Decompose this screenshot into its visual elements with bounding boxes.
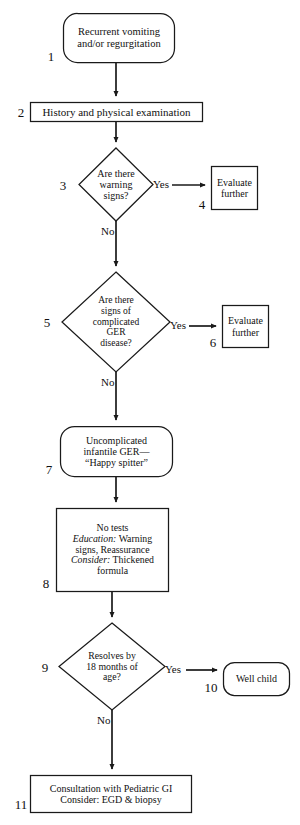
node-3-shape — [79, 148, 153, 221]
step-number-7: 7 — [42, 463, 56, 476]
node-5-shape — [62, 272, 170, 372]
step-number-3: 3 — [56, 179, 70, 192]
step-number-8: 8 — [39, 577, 53, 590]
node-10-shape — [224, 663, 290, 696]
flowchart-diagram: Recurrent vomiting and/or regurgitation … — [0, 0, 300, 825]
edge-label-no-3: No — [101, 226, 114, 237]
step-number-2: 2 — [14, 106, 28, 119]
edge-label-no-9: No — [97, 715, 110, 726]
edge-label-yes-3: Yes — [153, 179, 169, 190]
step-number-6: 6 — [206, 336, 220, 349]
flowchart-shapes-layer — [0, 0, 300, 825]
edge-label-yes-9: Yes — [165, 664, 181, 675]
node-9-shape — [59, 623, 165, 710]
node-7-shape — [61, 427, 173, 477]
node-4-shape — [212, 167, 258, 210]
step-number-1: 1 — [44, 50, 58, 63]
step-number-11: 11 — [12, 798, 30, 811]
node-11-shape — [31, 776, 192, 813]
edge-label-no-5: No — [101, 377, 114, 388]
step-number-5: 5 — [40, 316, 54, 329]
edge-label-yes-5: Yes — [170, 320, 186, 331]
node-2-shape — [31, 103, 203, 122]
step-number-10: 10 — [202, 681, 220, 694]
node-8-shape — [57, 509, 169, 592]
step-number-9: 9 — [38, 661, 52, 674]
step-number-4: 4 — [195, 198, 209, 211]
node-1-shape — [64, 14, 175, 63]
node-6-shape — [223, 306, 269, 348]
